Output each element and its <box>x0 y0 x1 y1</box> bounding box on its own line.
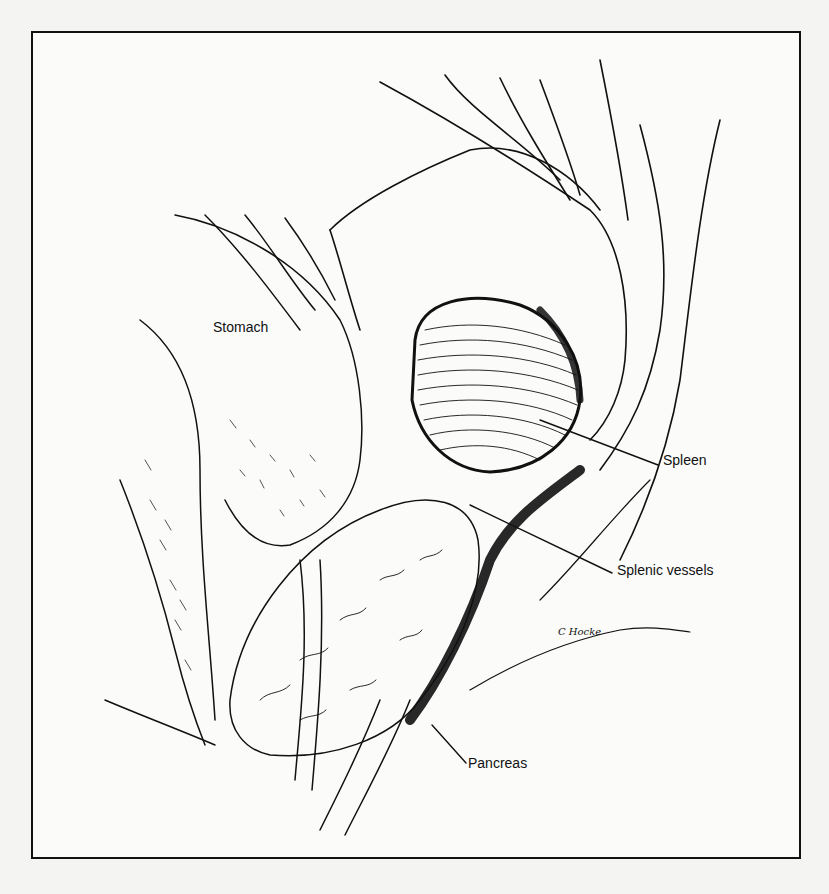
label-pancreas: Pancreas <box>468 755 527 771</box>
label-stomach: Stomach <box>213 319 268 335</box>
label-spleen: Spleen <box>663 452 707 468</box>
pancreas-leader-line <box>432 725 466 763</box>
pancreas-drawing <box>230 470 580 835</box>
surgical-illustration <box>0 0 829 894</box>
retroperitoneum-drawing <box>470 480 690 690</box>
label-splenic-vessels: Splenic vessels <box>617 562 714 578</box>
artist-signature: C Hocke <box>558 626 601 637</box>
spleen-drawing <box>412 298 581 472</box>
